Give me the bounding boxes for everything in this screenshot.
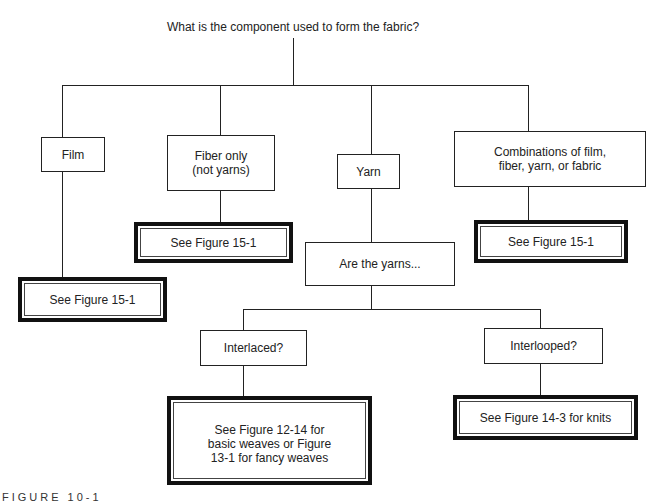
connector-combinations-ref	[528, 186, 529, 220]
connector-interlaced-ref	[243, 365, 244, 396]
node-yarn-label: Yarn	[356, 165, 380, 179]
ref-fiber-label: See Figure 15-1	[140, 228, 287, 257]
connector-film	[62, 85, 63, 137]
connector-level2-bar	[243, 309, 541, 310]
connector-yarn-question-down	[371, 285, 372, 310]
ref-combinations: See Figure 15-1	[474, 220, 628, 263]
connector-level1-bar	[62, 85, 529, 86]
ref-interlooped-label: See Figure 14-3 for knits	[459, 401, 632, 434]
root-question: What is the component used to form the f…	[100, 20, 486, 34]
connector-fiber	[220, 85, 221, 135]
node-interlooped-label: Interlooped?	[510, 339, 577, 353]
node-fiber: Fiber only (not yarns)	[167, 135, 275, 191]
node-film-label: Film	[62, 148, 85, 162]
figure-caption: FIGURE 10-1	[2, 491, 102, 503]
node-yarn: Yarn	[337, 154, 400, 189]
node-yarn-question: Are the yarns...	[305, 242, 455, 286]
ref-combinations-label: See Figure 15-1	[480, 226, 622, 257]
connector-yarn	[371, 85, 372, 154]
connector-combinations	[528, 85, 529, 131]
connector-yarn-question	[371, 188, 372, 242]
node-fiber-label: Fiber only (not yarns)	[192, 149, 249, 177]
connector-interlaced	[243, 309, 244, 330]
node-yarn-question-label: Are the yarns...	[339, 257, 420, 271]
connector-root-down	[293, 38, 294, 86]
ref-interlaced-label: See Figure 12-14 for basic weaves or Fig…	[173, 402, 366, 479]
node-interlaced-label: Interlaced?	[224, 341, 283, 355]
ref-film-label: See Figure 15-1	[24, 283, 161, 316]
connector-fiber-ref	[220, 190, 221, 222]
ref-interlooped: See Figure 14-3 for knits	[453, 395, 638, 440]
node-combinations-label: Combinations of film, fiber, yarn, or fa…	[494, 145, 606, 173]
node-combinations: Combinations of film, fiber, yarn, or fa…	[454, 131, 646, 187]
connector-interlooped	[540, 309, 541, 328]
connector-interlooped-ref	[540, 363, 541, 395]
ref-film: See Figure 15-1	[18, 277, 167, 322]
node-interlaced: Interlaced?	[200, 330, 307, 366]
ref-interlaced: See Figure 12-14 for basic weaves or Fig…	[167, 396, 372, 485]
node-film: Film	[41, 137, 105, 172]
ref-fiber: See Figure 15-1	[134, 222, 293, 263]
node-interlooped: Interlooped?	[484, 328, 603, 364]
connector-film-ref	[62, 171, 63, 277]
